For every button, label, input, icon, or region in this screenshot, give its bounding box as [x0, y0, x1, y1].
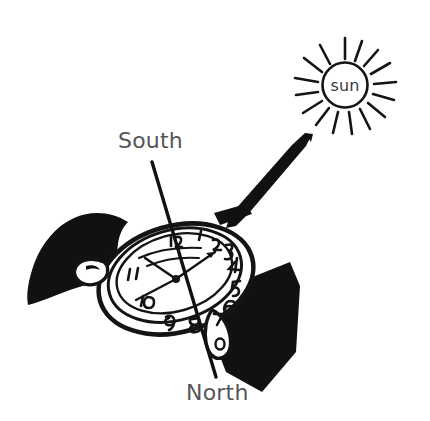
watch-compass-illustration: sun: [0, 0, 430, 421]
watch-hands-pivot: [172, 275, 180, 283]
watch-crown: [75, 259, 108, 285]
south-label: South: [118, 128, 183, 153]
watch-group: [27, 204, 300, 392]
sun-label: sun: [330, 76, 359, 95]
sun-group: sun: [295, 38, 396, 134]
north-label: North: [186, 380, 249, 405]
figure-canvas: sun: [0, 0, 430, 421]
watch-lug-pin: [216, 339, 225, 350]
